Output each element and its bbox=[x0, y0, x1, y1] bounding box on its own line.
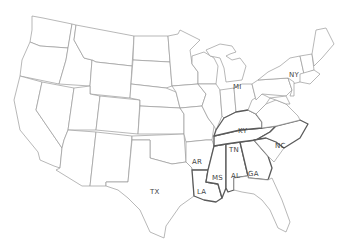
label-mi: MI bbox=[233, 83, 242, 91]
label-la: LA bbox=[197, 188, 206, 196]
state-ks[interactable] bbox=[138, 106, 184, 134]
label-al: AL bbox=[231, 172, 240, 180]
label-ar: AR bbox=[192, 158, 202, 166]
label-tx: TX bbox=[149, 188, 160, 196]
state-wa[interactable] bbox=[30, 16, 72, 48]
label-tn: TN bbox=[228, 146, 239, 154]
label-ga: GA bbox=[248, 170, 259, 178]
label-ms: MS bbox=[212, 174, 223, 182]
state-me[interactable] bbox=[312, 28, 334, 66]
state-nd[interactable] bbox=[133, 36, 170, 62]
state-nm[interactable] bbox=[90, 132, 132, 186]
state-sd[interactable] bbox=[131, 60, 172, 88]
us-map: MI NY KY TN NC AR MS AL GA LA TX bbox=[0, 0, 341, 251]
label-ky: KY bbox=[238, 127, 248, 135]
state-wy[interactable] bbox=[90, 60, 132, 98]
label-nc: NC bbox=[275, 142, 286, 150]
state-co[interactable] bbox=[96, 96, 140, 134]
label-ny: NY bbox=[289, 71, 300, 79]
state-fl[interactable] bbox=[234, 176, 290, 232]
us-map-svg: MI NY KY TN NC AR MS AL GA LA TX bbox=[0, 0, 341, 251]
